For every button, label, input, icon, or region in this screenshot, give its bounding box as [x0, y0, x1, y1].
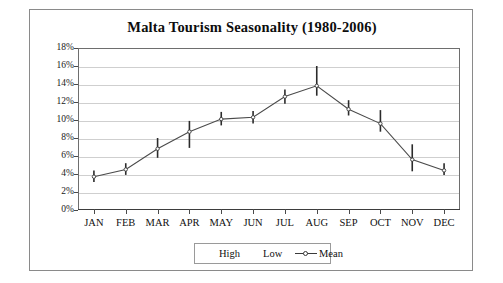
- x-axis-tick-mark: [412, 209, 413, 214]
- mean-data-point: [251, 116, 254, 119]
- mean-data-point: [379, 122, 382, 125]
- mean-data-point: [124, 168, 127, 171]
- mean-data-point: [315, 84, 318, 87]
- y-axis-tick-label: 16%: [40, 61, 74, 71]
- x-axis-tick-label: DEC: [424, 217, 464, 228]
- y-axis-tick-label: 6%: [40, 151, 74, 161]
- x-axis-tick-labels: JANFEBMARAPRMAYJUNJULAUGSEPOCTNOVDEC: [78, 217, 460, 233]
- legend-label-mean: Mean: [319, 248, 343, 259]
- legend-item-high: High: [219, 244, 240, 263]
- x-axis-tick-mark: [253, 209, 254, 214]
- mean-data-point: [283, 95, 286, 98]
- mean-data-point: [220, 117, 223, 120]
- y-axis-tick-label: 8%: [40, 133, 74, 143]
- chart-container: Malta Tourism Seasonality (1980-2006) Mo…: [29, 9, 473, 271]
- line-marker-icon: [295, 250, 317, 258]
- y-axis-tick-labels: 0%2%4%6%8%10%12%14%16%18%: [34, 48, 74, 210]
- y-axis-tick-label: 4%: [40, 169, 74, 179]
- y-axis-tick-label: 0%: [40, 205, 74, 215]
- legend-item-mean: Mean: [295, 244, 343, 263]
- chart-legend: High Low Mean: [194, 243, 331, 264]
- mean-data-point: [411, 158, 414, 161]
- legend-label-high: High: [219, 248, 240, 259]
- y-axis-tick-mark: [74, 210, 78, 211]
- x-axis-tick-mark: [158, 209, 159, 214]
- x-axis-tick-mark: [349, 209, 350, 214]
- x-axis-tick-mark: [221, 209, 222, 214]
- y-axis-tick-label: 10%: [40, 115, 74, 125]
- y-axis-tick-label: 18%: [40, 43, 74, 53]
- x-axis-tick-mark: [380, 209, 381, 214]
- x-axis-tick-mark: [444, 209, 445, 214]
- x-axis-tick-mark: [317, 209, 318, 214]
- x-axis-tick-mark: [126, 209, 127, 214]
- mean-data-point: [347, 108, 350, 111]
- x-axis-tick-mark: [285, 209, 286, 214]
- x-axis-tick-mark: [94, 209, 95, 214]
- mean-data-point: [92, 175, 95, 178]
- y-axis-tick-label: 2%: [40, 187, 74, 197]
- legend-label-low: Low: [263, 248, 282, 259]
- plot-area-wrapper: [78, 48, 460, 210]
- y-axis-tick-label: 12%: [40, 97, 74, 107]
- y-axis-tick-label: 14%: [40, 79, 74, 89]
- x-axis-line: [78, 209, 460, 210]
- mean-line: [94, 86, 444, 177]
- mean-data-point: [156, 147, 159, 150]
- x-axis-tick-mark: [189, 209, 190, 214]
- chart-title: Malta Tourism Seasonality (1980-2006): [30, 19, 474, 36]
- chart-series-layer: [78, 48, 460, 210]
- legend-item-low: Low: [263, 244, 282, 263]
- mean-data-point: [442, 169, 445, 172]
- mean-data-point: [188, 130, 191, 133]
